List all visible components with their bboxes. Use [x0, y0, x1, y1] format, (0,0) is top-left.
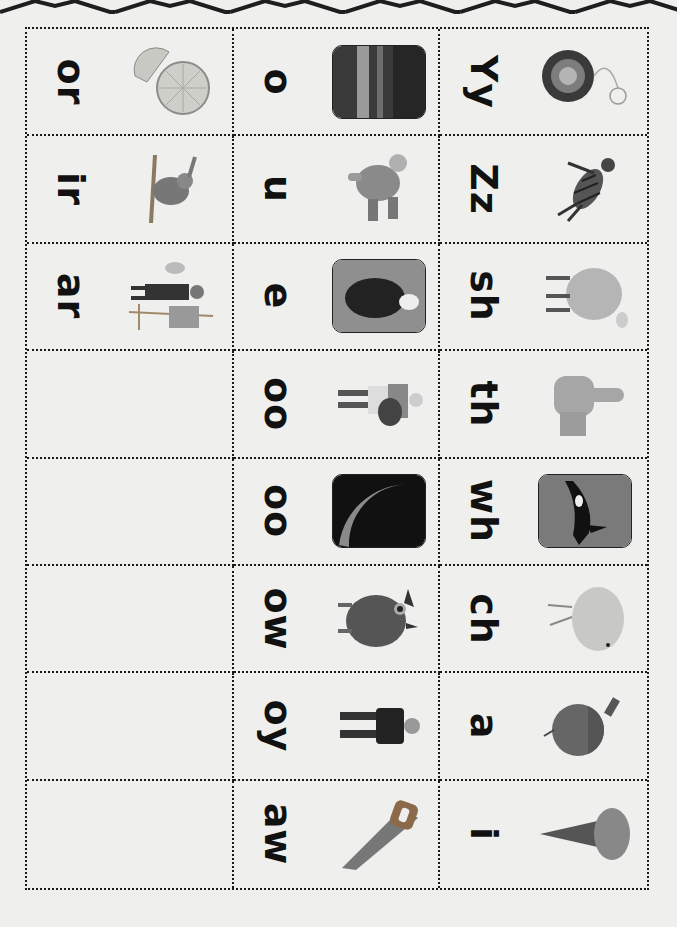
card-label: ar	[52, 273, 90, 319]
card-ch[interactable]: ch	[440, 566, 647, 673]
card-label: ch	[465, 593, 503, 645]
card-ir[interactable]: ir	[27, 136, 234, 243]
card-label: u	[259, 175, 297, 203]
card-label: o	[259, 68, 297, 95]
boy-icon	[332, 690, 424, 762]
card-label: or	[52, 58, 90, 105]
card-aw[interactable]: aw	[234, 781, 441, 888]
bird-icon	[125, 153, 217, 225]
phonics-card-grid: or o Yy	[25, 27, 649, 890]
card-empty-6	[27, 566, 234, 673]
card-empty-7	[27, 673, 234, 780]
puppet-icon	[332, 153, 424, 225]
card-ar[interactable]: ar	[27, 244, 234, 351]
card-label: oy	[259, 699, 297, 752]
card-empty-8	[27, 781, 234, 888]
card-a[interactable]: a	[440, 673, 647, 780]
ocean-icon	[332, 45, 426, 119]
thumb-icon	[538, 368, 630, 440]
card-i[interactable]: i	[440, 781, 647, 888]
card-label: Zz	[465, 163, 503, 215]
zebra-icon	[538, 153, 630, 225]
owl-icon	[332, 583, 424, 655]
moon-icon	[332, 474, 426, 548]
yoyo-icon	[538, 46, 630, 118]
card-empty-4	[27, 351, 234, 458]
card-label: aw	[259, 803, 297, 866]
card-label: ow	[259, 587, 297, 650]
card-e[interactable]: e	[234, 244, 441, 351]
whale-icon	[538, 474, 632, 548]
chick-icon	[538, 583, 630, 655]
orange-icon	[125, 46, 217, 118]
acorn-icon	[538, 690, 630, 762]
artist-icon	[125, 260, 217, 332]
card-oy[interactable]: oy	[234, 673, 441, 780]
eagle-icon	[332, 259, 426, 333]
card-oo-cook[interactable]: oo	[234, 351, 441, 458]
card-label: oo	[259, 484, 297, 538]
ice-cream-icon	[538, 798, 630, 870]
card-o[interactable]: o	[234, 29, 441, 136]
card-sh[interactable]: sh	[440, 244, 647, 351]
card-label: i	[465, 827, 503, 841]
card-label: oo	[259, 377, 297, 431]
card-label: Yy	[465, 55, 503, 109]
saw-icon	[332, 798, 424, 870]
card-or[interactable]: or	[27, 29, 234, 136]
card-oo-moon[interactable]: oo	[234, 459, 441, 566]
cook-icon	[332, 368, 424, 440]
card-wh[interactable]: wh	[440, 459, 647, 566]
card-label: sh	[465, 271, 503, 323]
card-label: wh	[465, 479, 503, 543]
card-zz[interactable]: Zz	[440, 136, 647, 243]
card-label: a	[465, 713, 503, 740]
card-label: e	[259, 283, 297, 310]
card-label: ir	[52, 172, 90, 206]
card-u[interactable]: u	[234, 136, 441, 243]
card-empty-5	[27, 459, 234, 566]
card-yy[interactable]: Yy	[440, 29, 647, 136]
card-ow[interactable]: ow	[234, 566, 441, 673]
card-th[interactable]: th	[440, 351, 647, 458]
zigzag-border-icon	[0, 0, 677, 14]
sheep-icon	[538, 260, 630, 332]
card-label: th	[465, 380, 503, 427]
